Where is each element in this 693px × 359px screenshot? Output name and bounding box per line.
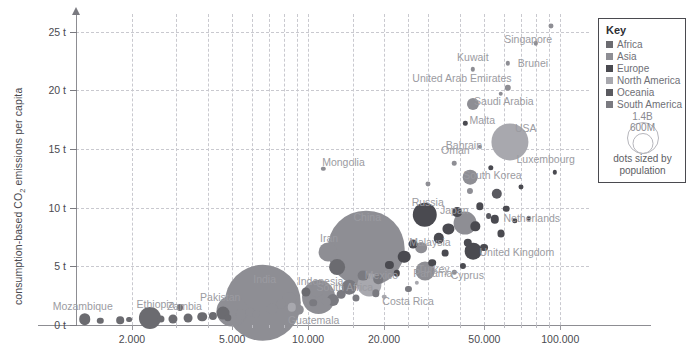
data-point[interactable] bbox=[415, 281, 419, 285]
x-tick-label: 5.000 bbox=[219, 333, 245, 345]
data-point[interactable] bbox=[552, 170, 556, 174]
data-point[interactable] bbox=[426, 182, 431, 187]
x-tick-label: 50.000 bbox=[468, 333, 500, 345]
gridline-vertical bbox=[408, 14, 409, 325]
data-point[interactable] bbox=[412, 202, 436, 226]
data-point[interactable] bbox=[358, 270, 369, 281]
data-point[interactable] bbox=[506, 61, 510, 65]
data-point[interactable] bbox=[452, 161, 457, 166]
gridline-horizontal bbox=[76, 32, 589, 33]
legend-size-bubbles: 1.4B 600M bbox=[606, 111, 679, 153]
data-point[interactable] bbox=[372, 290, 379, 297]
legend-item-asia[interactable]: Asia bbox=[606, 51, 679, 62]
y-tick-mark bbox=[70, 149, 77, 150]
gridline-vertical bbox=[536, 14, 537, 325]
data-point[interactable] bbox=[157, 316, 164, 323]
data-point[interactable] bbox=[452, 270, 456, 274]
y-tick-mark bbox=[70, 208, 77, 209]
data-point-label: Luxembourg bbox=[516, 153, 574, 165]
data-point[interactable] bbox=[497, 230, 504, 237]
data-point[interactable] bbox=[434, 233, 444, 243]
data-point[interactable] bbox=[398, 251, 411, 264]
gridline-horizontal bbox=[76, 208, 589, 209]
data-point[interactable] bbox=[534, 41, 538, 45]
data-point-label: Mongolia bbox=[322, 156, 365, 168]
data-point[interactable] bbox=[443, 223, 454, 234]
data-point[interactable] bbox=[405, 286, 411, 292]
data-point[interactable] bbox=[476, 203, 483, 210]
gridline-vertical bbox=[132, 14, 133, 325]
data-point[interactable] bbox=[408, 240, 417, 249]
legend-title: Key bbox=[606, 24, 679, 36]
gridline-vertical bbox=[560, 14, 561, 325]
data-point-label: United Kingdom bbox=[479, 246, 554, 258]
data-point[interactable] bbox=[526, 216, 531, 221]
x-tick-minor-mark bbox=[297, 325, 298, 328]
legend-item-africa[interactable]: Africa bbox=[606, 39, 679, 50]
data-point[interactable] bbox=[276, 299, 286, 309]
data-point[interactable] bbox=[79, 313, 91, 325]
data-point[interactable] bbox=[471, 222, 480, 231]
data-point[interactable] bbox=[491, 215, 499, 223]
x-tick-label: 2.000 bbox=[119, 333, 145, 345]
data-point[interactable] bbox=[252, 311, 259, 318]
data-point[interactable] bbox=[463, 170, 478, 185]
data-point[interactable] bbox=[310, 299, 318, 307]
gridline-vertical bbox=[297, 14, 298, 325]
data-point[interactable] bbox=[503, 206, 509, 212]
data-point[interactable] bbox=[177, 304, 183, 310]
data-point[interactable] bbox=[97, 318, 103, 324]
y-tick-label: 10 t bbox=[48, 202, 66, 214]
data-point[interactable] bbox=[512, 218, 517, 223]
x-axis-line bbox=[38, 325, 651, 326]
x-tick-mark bbox=[560, 325, 561, 330]
gridline-vertical bbox=[208, 14, 209, 325]
data-point-label: Mozambique bbox=[53, 300, 113, 312]
data-point[interactable] bbox=[452, 207, 462, 217]
y-tick-label: 25 t bbox=[48, 26, 66, 38]
data-point[interactable] bbox=[549, 23, 554, 28]
data-point[interactable] bbox=[492, 188, 502, 198]
legend-note-line2: population bbox=[606, 165, 679, 177]
data-point[interactable] bbox=[126, 317, 132, 323]
data-point[interactable] bbox=[382, 295, 387, 300]
data-point[interactable] bbox=[428, 259, 436, 267]
data-point[interactable] bbox=[321, 167, 325, 171]
x-tick-minor-mark bbox=[176, 325, 177, 328]
data-point[interactable] bbox=[480, 244, 488, 252]
data-point[interactable] bbox=[197, 312, 207, 322]
data-point[interactable] bbox=[117, 316, 125, 324]
legend-item-south-america[interactable]: South America bbox=[606, 99, 679, 110]
data-point-label: Oman bbox=[441, 144, 470, 156]
legend-item-label: Europe bbox=[617, 63, 649, 74]
x-tick-minor-mark bbox=[208, 325, 209, 328]
y-axis-title-sub: 2 bbox=[18, 188, 27, 192]
data-point[interactable] bbox=[463, 121, 467, 125]
data-point[interactable] bbox=[498, 92, 503, 97]
data-point[interactable] bbox=[488, 165, 493, 170]
data-point[interactable] bbox=[337, 290, 346, 299]
legend-color-swatch bbox=[606, 41, 613, 48]
data-point[interactable] bbox=[310, 284, 324, 298]
x-tick-minor-mark bbox=[428, 325, 429, 328]
data-point[interactable] bbox=[471, 67, 475, 71]
x-tick-minor-mark bbox=[408, 325, 409, 328]
data-point[interactable] bbox=[491, 123, 528, 160]
data-point[interactable] bbox=[329, 260, 345, 276]
data-point[interactable] bbox=[209, 312, 217, 320]
data-point[interactable] bbox=[442, 250, 449, 257]
data-point[interactable] bbox=[394, 270, 400, 276]
y-tick-label: 15 t bbox=[48, 143, 66, 155]
legend-item-north-america[interactable]: North America bbox=[606, 75, 679, 86]
data-point[interactable] bbox=[374, 274, 384, 284]
legend-item-oceania[interactable]: Oceania bbox=[606, 87, 679, 98]
data-point[interactable] bbox=[486, 213, 492, 219]
data-point[interactable] bbox=[467, 98, 479, 110]
data-point[interactable] bbox=[184, 314, 193, 323]
data-point[interactable] bbox=[519, 184, 524, 189]
data-point[interactable] bbox=[353, 294, 360, 301]
legend-bubble-small bbox=[632, 133, 653, 154]
legend-item-europe[interactable]: Europe bbox=[606, 63, 679, 74]
data-point[interactable] bbox=[460, 263, 466, 269]
data-point[interactable] bbox=[467, 188, 473, 194]
